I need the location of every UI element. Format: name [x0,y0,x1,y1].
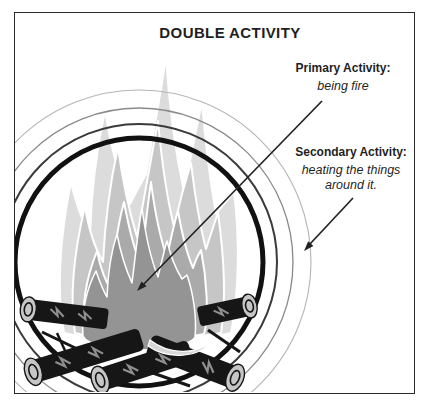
secondary-activity-label: Secondary Activity: heating the things a… [266,144,415,193]
secondary-activity-description-line2: around it. [266,178,415,193]
primary-activity-heading: Primary Activity: [258,60,415,76]
secondary-activity-description-line1: heating the things [266,163,415,178]
diagram-canvas: DOUBLE ACTIVITY Primary Activity: being … [0,0,427,413]
primary-activity-description: being fire [258,79,415,94]
secondary-activity-heading: Secondary Activity: [266,144,415,160]
diagram-frame: DOUBLE ACTIVITY Primary Activity: being … [14,12,415,394]
primary-activity-label: Primary Activity: being fire [258,60,415,94]
diagram-title: DOUBLE ACTIVITY [130,24,330,41]
secondary-arrow [304,198,353,251]
